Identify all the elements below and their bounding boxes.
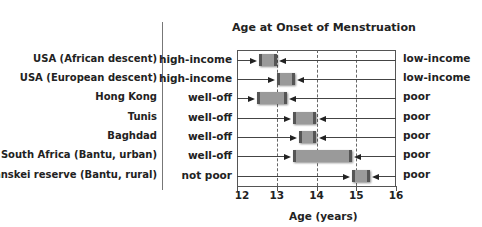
range-box: [293, 112, 317, 124]
poor-label: poor: [403, 90, 430, 102]
x-tick-label: 16: [381, 189, 411, 201]
range-box: [259, 54, 277, 66]
left-connector: [237, 118, 284, 119]
right-arrow-icon: [284, 116, 291, 122]
poor-label: poor: [403, 148, 430, 160]
x-tick-label: 12: [227, 189, 257, 201]
poor-label: poor: [403, 110, 430, 122]
left-connector: [237, 137, 290, 138]
range-box: [299, 131, 317, 143]
left-arrow-icon: [354, 154, 361, 160]
right-arrow-icon: [343, 174, 350, 180]
well-off-label: well-off: [188, 91, 232, 103]
range-box: [352, 170, 370, 182]
left-connector: [237, 176, 343, 177]
well-off-label: high-income: [159, 72, 232, 84]
right-connector: [296, 98, 396, 99]
population-label: South Africa (Bantu, urban): [1, 149, 157, 160]
right-arrow-icon: [250, 58, 257, 64]
right-arrow-icon: [284, 154, 291, 160]
population-label: Tunis: [128, 111, 157, 122]
right-arrow-icon: [290, 135, 297, 141]
poor-label: poor: [403, 168, 430, 180]
poor-label: poor: [403, 129, 430, 141]
well-off-label: well-off: [188, 130, 232, 142]
x-axis-label: Age (years): [289, 210, 358, 222]
x-tick-label: 14: [302, 189, 332, 201]
left-connector: [237, 98, 248, 99]
well-off-label: not poor: [182, 169, 233, 181]
range-box: [277, 73, 295, 85]
well-off-label: well-off: [188, 111, 232, 123]
right-connector: [304, 79, 396, 80]
left-arrow-icon: [289, 96, 296, 102]
right-connector: [361, 156, 396, 157]
well-off-label: high-income: [159, 53, 232, 65]
population-label: Transkei reserve (Bantu, rural): [0, 169, 157, 180]
right-connector: [326, 137, 397, 138]
x-tick-label: 15: [341, 189, 371, 201]
poor-label: low-income: [403, 71, 470, 83]
range-box: [293, 150, 353, 162]
right-connector: [379, 176, 396, 177]
population-label: Baghdad: [107, 130, 157, 141]
left-connector: [237, 79, 268, 80]
left-arrow-icon: [319, 135, 326, 141]
range-box: [257, 92, 287, 104]
x-tick-label: 13: [262, 189, 292, 201]
left-arrow-icon: [319, 116, 326, 122]
right-arrow-icon: [268, 77, 275, 83]
label-divider: [162, 22, 163, 190]
right-connector: [326, 118, 397, 119]
population-label: USA (European descent): [20, 72, 157, 83]
left-connector: [237, 156, 284, 157]
left-connector: [237, 60, 250, 61]
left-arrow-icon: [297, 77, 304, 83]
population-label: USA (African descent): [33, 53, 157, 64]
right-arrow-icon: [248, 96, 255, 102]
left-arrow-icon: [279, 58, 286, 64]
right-connector: [286, 60, 396, 61]
gridline: [317, 50, 318, 186]
population-label: Hong Kong: [95, 91, 157, 102]
well-off-label: well-off: [188, 149, 232, 161]
poor-label: low-income: [403, 52, 470, 64]
left-arrow-icon: [372, 174, 379, 180]
chart-title: Age at Onset of Menstruation: [232, 21, 416, 34]
